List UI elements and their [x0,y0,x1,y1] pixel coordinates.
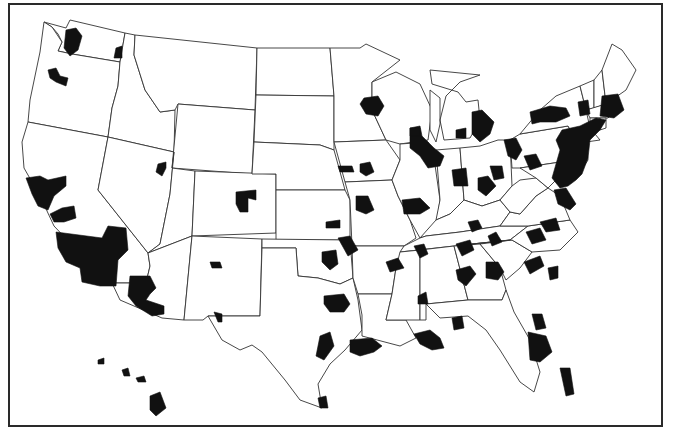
state-nd [256,48,334,96]
metro-area [456,128,466,138]
state-mt [134,35,257,112]
metro-area [532,314,546,330]
metro-area [600,94,624,118]
metro-area [472,110,494,142]
metro-area [452,168,468,186]
state-wy [172,104,255,174]
metro-area [414,330,444,350]
state-nm [184,236,262,320]
state-me [602,44,636,104]
metro-area [318,396,328,408]
hawaii-island-1 [122,368,130,376]
metro-area [350,338,382,356]
state-co [192,171,276,236]
hawaii-island-3 [150,392,166,416]
state-fl [426,290,540,392]
state-sd [254,95,334,150]
metro-area [578,100,590,116]
metro-area [528,332,552,362]
metro-area [410,128,420,136]
metro-area [210,262,222,268]
hawaii-islands [98,358,166,416]
metro-area [452,316,464,330]
hawaii-island-2 [136,376,146,382]
us-metro-map [0,0,674,438]
state-ks [276,190,350,240]
metro-area [560,368,574,396]
metro-area [338,166,354,172]
hawaii-island-0 [98,358,104,364]
metro-area [548,266,558,280]
